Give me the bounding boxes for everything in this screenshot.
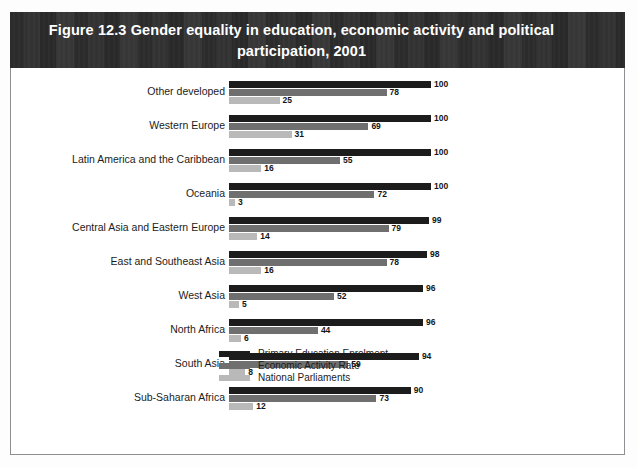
bar-1: [229, 259, 387, 266]
bar-value-label: 100: [434, 181, 448, 192]
bar-value-label: 14: [260, 231, 269, 242]
bar-2: [229, 131, 292, 138]
bar-value-label: 96: [426, 283, 435, 294]
legend-label: Primary Education Enrolment: [258, 348, 388, 360]
bar-1: [229, 225, 389, 232]
bar-value-label: 69: [371, 121, 380, 132]
bar-1: [229, 89, 387, 96]
bar-value-label: 25: [283, 95, 292, 106]
legend-swatch-1: [219, 363, 250, 369]
bar-value-label: 79: [392, 223, 401, 234]
category-label: Western Europe: [10, 114, 225, 136]
bar-value-label: 72: [377, 189, 386, 200]
figure-title: Figure 12.3 Gender equality in education…: [10, 12, 625, 62]
bar-1: [229, 395, 376, 402]
bar-2: [229, 97, 280, 104]
legend-label: National Parliaments: [258, 372, 350, 384]
bar-0: [229, 115, 431, 122]
legend-item[interactable]: Primary Education Enrolment: [219, 349, 549, 359]
bar-value-label: 3: [238, 197, 243, 208]
bar-value-label: 96: [426, 317, 435, 328]
bar-0: [229, 285, 423, 292]
bar-group: Latin America and the Caribbean1005516: [10, 148, 625, 182]
legend-item[interactable]: Economic Activity Rate: [219, 361, 549, 371]
category-label: Central Asia and Eastern Europe: [10, 216, 225, 238]
category-label: South Asia: [10, 352, 225, 374]
bar-value-label: 99: [432, 215, 441, 226]
figure-title-banner: Figure 12.3 Gender equality in education…: [10, 12, 625, 68]
category-label: Other developed: [10, 80, 225, 102]
bar-group: Other developed1007825: [10, 80, 625, 114]
bar-value-label: 6: [244, 333, 249, 344]
bar-2: [229, 199, 235, 206]
bar-value-label: 31: [295, 129, 304, 140]
bar-2: [229, 301, 239, 308]
bar-0: [229, 149, 431, 156]
bar-group: West Asia96525: [10, 284, 625, 318]
bar-1: [229, 157, 340, 164]
category-label: Sub-Saharan Africa: [10, 386, 225, 408]
bar-value-label: 16: [264, 163, 273, 174]
bar-value-label: 100: [434, 113, 448, 124]
bar-group: Western Europe1006931: [10, 114, 625, 148]
bar-value-label: 100: [434, 79, 448, 90]
bar-group: Sub-Saharan Africa907312: [10, 386, 625, 420]
legend-swatch-0: [219, 351, 250, 357]
bar-value-label: 5: [242, 299, 247, 310]
bar-value-label: 100: [434, 147, 448, 158]
bar-2: [229, 233, 257, 240]
bar-2: [229, 403, 253, 410]
bar-value-label: 52: [337, 291, 346, 302]
bar-value-label: 78: [390, 87, 399, 98]
bar-group: East and Southeast Asia987816: [10, 250, 625, 284]
bar-2: [229, 165, 261, 172]
legend-item[interactable]: National Parliaments: [219, 373, 549, 383]
bar-2: [229, 267, 261, 274]
bar-group: Central Asia and Eastern Europe997914: [10, 216, 625, 250]
category-label: North Africa: [10, 318, 225, 340]
bar-value-label: 90: [414, 385, 423, 396]
bar-value-label: 16: [264, 265, 273, 276]
bar-1: [229, 191, 374, 198]
legend-swatch-2: [219, 375, 250, 381]
bar-value-label: 12: [256, 401, 265, 412]
category-label: Oceania: [10, 182, 225, 204]
bar-1: [229, 327, 318, 334]
bar-group: North Africa96446: [10, 318, 625, 352]
bar-value-label: 78: [390, 257, 399, 268]
bar-2: [229, 335, 241, 342]
legend-label: Economic Activity Rate: [258, 360, 360, 372]
category-label: Latin America and the Caribbean: [10, 148, 225, 170]
bar-value-label: 98: [430, 249, 439, 260]
category-label: East and Southeast Asia: [10, 250, 225, 272]
bar-value-label: 73: [379, 393, 388, 404]
chart-plot-area: Other developed1007825Western Europe1006…: [10, 68, 625, 455]
figure-container: Figure 12.3 Gender equality in education…: [0, 0, 637, 468]
bar-group: Oceania100723: [10, 182, 625, 216]
bar-value-label: 55: [343, 155, 352, 166]
chart-legend: Primary Education EnrolmentEconomic Acti…: [219, 349, 549, 385]
bar-0: [229, 81, 431, 88]
bar-value-label: 44: [321, 325, 330, 336]
category-label: West Asia: [10, 284, 225, 306]
bar-0: [229, 183, 431, 190]
